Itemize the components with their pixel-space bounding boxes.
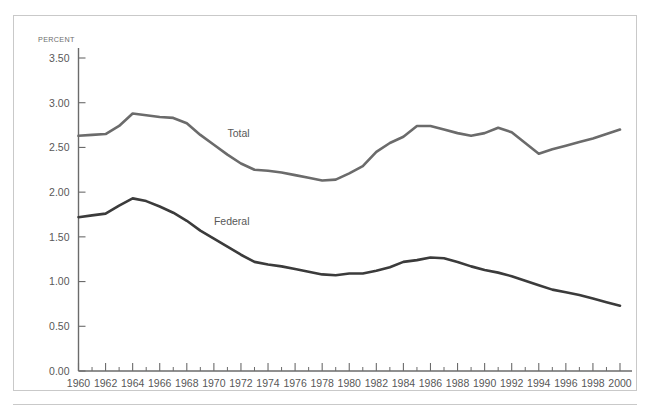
- y-axis-tick-label: 3.50: [49, 52, 70, 64]
- y-axis-tick-label: 0.00: [49, 365, 70, 377]
- chart-page: 0.000.501.001.502.002.503.003.50 1960196…: [0, 0, 653, 419]
- x-axis-tick-label: 1976: [283, 377, 307, 389]
- series-annotations: TotalFederal: [214, 127, 250, 228]
- chart-canvas: 0.000.501.001.502.002.503.003.50 1960196…: [0, 0, 653, 419]
- x-axis-tick-label: 1996: [554, 377, 578, 389]
- x-axis-tick-label: 1990: [473, 377, 497, 389]
- x-axis-tick-label: 1992: [500, 377, 524, 389]
- x-axis-tick-label: 1960: [67, 377, 91, 389]
- x-axis-tick-label: 1984: [392, 377, 416, 389]
- x-axis-tick-label: 1970: [202, 377, 226, 389]
- y-axis-tick-label: 3.00: [49, 97, 70, 109]
- series-label-federal: Federal: [214, 215, 250, 227]
- x-axis-tick-label: 2000: [608, 377, 632, 389]
- series-line-federal: [79, 198, 621, 305]
- x-axis-tick-label: 1974: [256, 377, 280, 389]
- y-axis: 0.000.501.001.502.002.503.003.50: [49, 48, 85, 377]
- x-axis-tick-label: 1986: [419, 377, 443, 389]
- y-axis-tick-label: 1.50: [49, 231, 70, 243]
- x-axis-tick-label: 1980: [338, 377, 362, 389]
- series-line-total: [79, 113, 621, 180]
- x-axis-tick-label: 1972: [229, 377, 253, 389]
- x-axis-tick-label: 1978: [310, 377, 334, 389]
- y-axis-tick-label: 2.00: [49, 186, 70, 198]
- series-lines: [79, 113, 621, 305]
- y-axis-tick-label: 0.50: [49, 320, 70, 332]
- x-axis-tick-label: 1964: [121, 377, 145, 389]
- line-chart: 0.000.501.001.502.002.503.003.50 1960196…: [0, 0, 653, 419]
- y-axis-unit-label: PERCENT: [38, 35, 75, 44]
- x-axis: 1960196219641966196819701972197419761978…: [67, 363, 632, 389]
- x-axis-tick-label: 1982: [365, 377, 389, 389]
- x-axis-tick-label: 1994: [527, 377, 551, 389]
- x-axis-tick-label: 1966: [148, 377, 172, 389]
- x-axis-tick-label: 1988: [446, 377, 470, 389]
- y-axis-tick-label: 1.00: [49, 275, 70, 287]
- x-axis-tick-label: 1962: [94, 377, 118, 389]
- series-label-total: Total: [227, 127, 249, 139]
- x-axis-tick-label: 1968: [175, 377, 199, 389]
- y-axis-tick-label: 2.50: [49, 141, 70, 153]
- x-axis-tick-label: 1998: [581, 377, 605, 389]
